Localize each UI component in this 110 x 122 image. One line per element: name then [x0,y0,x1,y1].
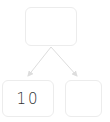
root-node [25,7,77,46]
edge-root-to-right [51,47,77,76]
right-child-node [65,80,102,117]
left-child-label: 10 [16,90,39,108]
left-child-node: 10 [2,80,54,117]
edge-root-to-left [28,47,51,76]
